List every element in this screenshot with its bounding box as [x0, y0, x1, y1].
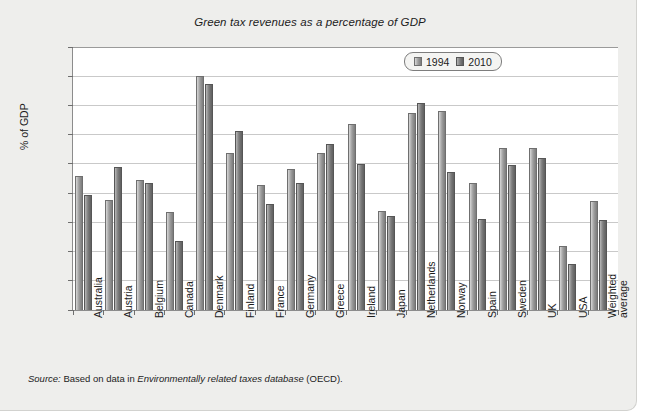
bar-2010 — [508, 165, 516, 310]
bar-group — [467, 47, 497, 310]
bar-2010 — [538, 158, 546, 310]
bar-2010 — [417, 103, 425, 310]
bar-group — [255, 47, 285, 310]
bar-group — [224, 47, 254, 310]
bar-1994 — [469, 183, 477, 310]
bar-group — [497, 47, 527, 310]
bar-group — [103, 47, 133, 310]
bar-1994 — [590, 201, 598, 310]
bar-2010 — [296, 183, 304, 310]
bar-group — [73, 47, 103, 310]
bar-2010 — [145, 183, 153, 310]
bar-1994 — [438, 111, 446, 310]
bar-group — [557, 47, 587, 310]
bar-1994 — [348, 124, 356, 310]
legend-label-2010: 2010 — [468, 56, 491, 68]
bar-group — [376, 47, 406, 310]
bar-group — [588, 47, 618, 310]
bar-1994 — [166, 212, 174, 310]
bar-1994 — [257, 185, 265, 310]
bar-2010 — [235, 131, 243, 310]
source-note: Source: Based on data in Environmentally… — [28, 373, 343, 384]
bar-2010 — [175, 241, 183, 310]
bar-2010 — [568, 264, 576, 310]
bar-group — [436, 47, 466, 310]
bar-1994 — [378, 211, 386, 310]
legend-label-1994: 1994 — [426, 56, 449, 68]
legend-swatch-icon-1994 — [414, 57, 422, 66]
bar-group — [285, 47, 315, 310]
bar-1994 — [136, 180, 144, 310]
bar-2010 — [357, 164, 365, 310]
legend-entry-2010: 2010 — [456, 56, 491, 68]
bar-2010 — [266, 204, 274, 310]
x-tick-mark — [73, 310, 74, 315]
y-axis-title: % of GDP — [18, 103, 30, 150]
bar-2010 — [84, 195, 92, 310]
legend-swatch-icon-2010 — [456, 57, 464, 66]
source-database-name: Environmentally related taxes database — [137, 373, 303, 384]
bar-1994 — [499, 148, 507, 310]
bar-group — [346, 47, 376, 310]
bar-1994 — [287, 169, 295, 310]
bar-1994 — [226, 153, 234, 310]
bar-1994 — [196, 76, 204, 310]
bar-1994 — [317, 153, 325, 310]
bar-1994 — [408, 113, 416, 310]
source-text-before: Based on data in — [61, 373, 138, 384]
bar-group — [134, 47, 164, 310]
x-axis-label-weighted-average: Weighted average — [607, 274, 629, 318]
bar-2010 — [205, 84, 213, 310]
bar-1994 — [559, 246, 567, 310]
legend-entry-1994: 1994 — [414, 56, 449, 68]
bar-2010 — [387, 216, 395, 310]
source-label: Source: — [28, 373, 61, 384]
bar-group — [315, 47, 345, 310]
chart-title: Green tax revenues as a percentage of GD… — [0, 16, 620, 28]
bar-1994 — [529, 148, 537, 310]
bar-1994 — [105, 200, 113, 310]
plot-area: 00.511.522.533.544.5AustraliaAustriaBelg… — [72, 47, 618, 311]
bar-2010 — [478, 219, 486, 310]
bar-group — [527, 47, 557, 310]
bar-group — [194, 47, 224, 310]
figure-panel: Green tax revenues as a percentage of GD… — [0, 0, 637, 411]
source-text-after: (OECD). — [304, 373, 343, 384]
bar-1994 — [75, 176, 83, 310]
bar-group — [164, 47, 194, 310]
chart-legend: 1994 2010 — [404, 52, 502, 71]
